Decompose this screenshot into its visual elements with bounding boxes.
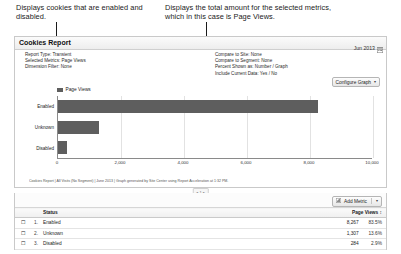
chart-x-tick: 6,000 bbox=[241, 160, 252, 165]
chart-gridline bbox=[373, 96, 374, 158]
cookies-report-panel: Cookies Report Jun 2013 Report Type: Tra… bbox=[14, 36, 387, 188]
chart-bar[interactable] bbox=[58, 141, 67, 154]
legend-swatch-page-views bbox=[57, 88, 63, 92]
table-body: ☐1.Enabled8,267 83.5%☐2.Unknown1,307 13.… bbox=[15, 218, 386, 250]
chart-x-tick: 4,000 bbox=[178, 160, 189, 165]
page-title: Cookies Report bbox=[19, 39, 71, 46]
column-header-index bbox=[31, 208, 41, 218]
row-page-views: 1,307 13.6% bbox=[320, 228, 386, 239]
chart-y-axis-label: Disabled bbox=[36, 145, 54, 150]
bar-chart: Page Views EnabledUnknownDisabled 02,000… bbox=[15, 87, 386, 175]
legend-label-page-views: Page Views bbox=[66, 87, 91, 92]
report-header: Cookies Report Jun 2013 bbox=[15, 37, 386, 50]
sort-icon: ↕ bbox=[380, 210, 382, 215]
row-checkbox[interactable]: ☐ bbox=[15, 228, 31, 239]
add-metric-button[interactable]: Add Metric ▾ bbox=[332, 196, 382, 207]
chart-bar-row: Unknown bbox=[58, 121, 372, 134]
meta-row: Percent Shown as: Number / Graph bbox=[215, 64, 288, 70]
button-separator bbox=[371, 198, 372, 204]
row-page-views-percent: 2.9% bbox=[360, 241, 382, 246]
row-checkbox[interactable]: ☐ bbox=[15, 218, 31, 229]
chart-bar-row: Enabled bbox=[58, 100, 372, 113]
chart-y-axis-label: Enabled bbox=[37, 104, 54, 109]
column-header-status[interactable]: Status bbox=[41, 208, 320, 218]
checkbox-icon: ☐ bbox=[21, 220, 25, 225]
configure-graph-button[interactable]: Configure Graph ▾ bbox=[332, 77, 380, 87]
chart-legend: Page Views bbox=[57, 87, 91, 92]
row-page-views-percent: 13.6% bbox=[360, 231, 382, 236]
row-page-views-value: 284 bbox=[351, 241, 359, 246]
row-page-views: 284 2.9% bbox=[320, 239, 386, 250]
row-checkbox[interactable]: ☐ bbox=[15, 239, 31, 250]
meta-row: Include Current Data: Yes / No bbox=[215, 71, 288, 77]
annotation-left: Displays cookies that are enabled and di… bbox=[16, 3, 146, 22]
table-row[interactable]: ☐3.Disabled284 2.9% bbox=[15, 239, 386, 250]
metrics-table: Status Page Views ↕ ☐1.Enabled8,267 83.5… bbox=[15, 207, 386, 250]
add-metric-label: Add Metric bbox=[344, 199, 367, 204]
chevron-down-icon: ▾ bbox=[374, 80, 376, 84]
chart-plot-area: EnabledUnknownDisabled bbox=[57, 96, 372, 158]
chevron-down-icon: ▾ bbox=[376, 199, 378, 203]
column-header-select[interactable] bbox=[15, 208, 31, 218]
row-index: 2. bbox=[31, 228, 41, 239]
row-page-views: 8,267 83.5% bbox=[320, 218, 386, 229]
chart-footnote: Cookies Report | All Visits (No Segment)… bbox=[29, 179, 376, 184]
chart-bar[interactable] bbox=[58, 100, 318, 113]
annotation-right: Displays the total amount for the select… bbox=[165, 3, 335, 22]
metric-icon bbox=[336, 198, 341, 204]
chart-x-tick: 2,000 bbox=[115, 160, 126, 165]
table-row[interactable]: ☐1.Enabled8,267 83.5% bbox=[15, 218, 386, 229]
row-status[interactable]: Unknown bbox=[41, 228, 320, 239]
row-index: 3. bbox=[31, 239, 41, 250]
checkbox-icon: ☐ bbox=[21, 241, 25, 246]
screenshot-root: Displays cookies that are enabled and di… bbox=[0, 0, 401, 254]
chart-x-tick: 8,000 bbox=[304, 160, 315, 165]
row-status[interactable]: Disabled bbox=[41, 239, 320, 250]
row-page-views-percent: 83.5% bbox=[360, 220, 382, 225]
row-index: 1. bbox=[31, 218, 41, 229]
configure-graph-label: Configure Graph bbox=[336, 80, 371, 85]
chart-bar[interactable] bbox=[58, 121, 99, 134]
meta-row: Dimension Filter: None bbox=[25, 64, 86, 70]
column-header-page-views[interactable]: Page Views ↕ bbox=[320, 208, 386, 218]
chart-x-tick: 0 bbox=[56, 160, 58, 165]
column-header-page-views-label: Page Views bbox=[352, 210, 378, 215]
table-row[interactable]: ☐2.Unknown1,307 13.6% bbox=[15, 228, 386, 239]
data-table-panel: Add Metric ▾ Status Page Views ↕ ☐1.Enab… bbox=[14, 193, 387, 250]
chart-bar-row: Disabled bbox=[58, 141, 372, 154]
row-page-views-value: 1,307 bbox=[347, 231, 359, 236]
row-status[interactable]: Enabled bbox=[41, 218, 320, 229]
chart-x-axis bbox=[57, 158, 372, 159]
report-metadata-left: Report Type: Transient Selected Metrics:… bbox=[25, 52, 86, 71]
table-toolbar: Add Metric ▾ bbox=[15, 193, 386, 207]
table-header-row: Status Page Views ↕ bbox=[15, 208, 386, 218]
chart-x-tick: 10,000 bbox=[365, 160, 378, 165]
row-page-views-value: 8,267 bbox=[347, 220, 359, 225]
report-metadata-right: Compare to Site: None Compare to Segment… bbox=[215, 52, 288, 77]
checkbox-icon: ☐ bbox=[21, 231, 25, 236]
report-metadata: Report Type: Transient Selected Metrics:… bbox=[15, 50, 386, 78]
chart-y-axis-label: Unknown bbox=[35, 125, 54, 130]
